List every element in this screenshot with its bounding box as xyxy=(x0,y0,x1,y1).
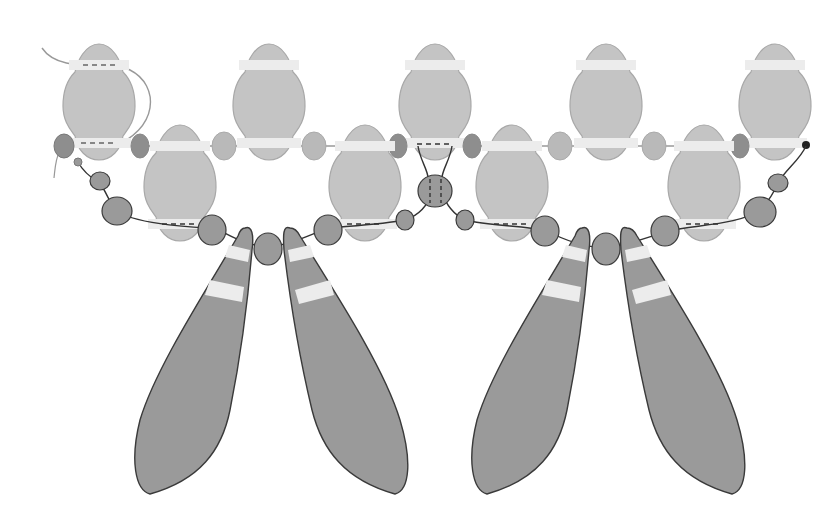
dagger-drop xyxy=(472,227,590,494)
dagger-drops xyxy=(135,227,745,494)
light-bead xyxy=(233,44,305,160)
beading-diagram xyxy=(0,0,837,530)
light-bead xyxy=(570,44,642,160)
light-bead xyxy=(739,44,811,160)
dagger-drop xyxy=(135,227,253,494)
light-bead xyxy=(668,125,740,241)
dagger-drop xyxy=(284,227,408,494)
dagger-drop xyxy=(621,227,745,494)
light-bead xyxy=(399,44,471,160)
